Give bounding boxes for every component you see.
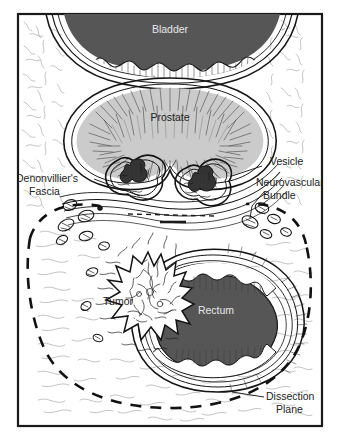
label-neurovascular-line1: Neurovascular (256, 176, 324, 188)
label-dissection-line1: Dissection (266, 390, 315, 402)
label-denonvilliers-line1: Denonvillier's (16, 172, 78, 184)
label-rectum: Rectum (198, 304, 234, 316)
label-bladder: Bladder (152, 23, 189, 35)
label-denonvilliers-line2: Fascia (29, 185, 60, 197)
label-prostate: Prostate (150, 111, 189, 123)
pelvic-cross-section-illustration: Bladder Prostate (0, 0, 340, 442)
label-tumor: Tumor (103, 295, 133, 307)
label-dissection-line2: Plane (276, 403, 303, 415)
label-vesicle: Vesicle (270, 155, 303, 167)
figure-root: Bladder Prostate (0, 0, 340, 442)
label-neurovascular-line2: Bundle (263, 189, 296, 201)
